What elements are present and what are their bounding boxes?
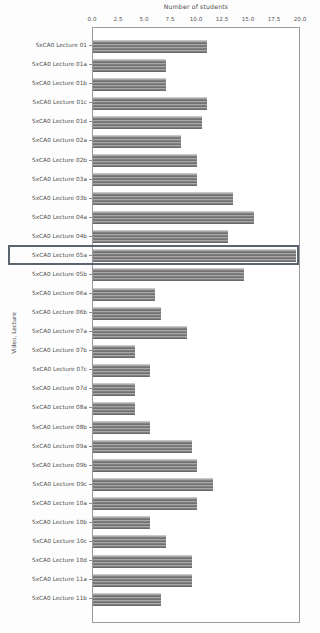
y-tick-label: SxCA0 Lecture 03b xyxy=(32,195,87,201)
bar[interactable] xyxy=(93,383,135,396)
y-tick-mark xyxy=(89,522,92,523)
y-tick-mark xyxy=(89,388,92,389)
y-tick-label: SxCA0 Lecture 05a xyxy=(32,252,87,258)
bar[interactable] xyxy=(93,192,233,205)
y-tick-label: SxCA0 Lecture 01d xyxy=(32,118,87,124)
bar[interactable] xyxy=(93,478,213,491)
bar[interactable] xyxy=(93,268,244,281)
bar[interactable] xyxy=(93,40,207,53)
y-tick-label: SxCA0 Lecture 07a xyxy=(32,328,87,334)
x-tick-label: 7.5 xyxy=(166,16,175,22)
y-tick-label: SxCA0 Lecture 09a xyxy=(32,443,87,449)
y-tick-label: SxCA0 Lecture 11b xyxy=(32,595,87,601)
y-tick-label: SxCA0 Lecture 01b xyxy=(32,80,87,86)
bar[interactable] xyxy=(93,421,150,434)
bar[interactable] xyxy=(93,593,161,606)
bar[interactable] xyxy=(93,288,155,301)
plot-area[interactable] xyxy=(92,27,300,623)
y-tick-mark xyxy=(89,198,92,199)
bar[interactable] xyxy=(93,211,254,224)
y-tick-mark xyxy=(89,465,92,466)
bar[interactable] xyxy=(93,230,228,243)
y-tick-label: SxCA0 Lecture 08a xyxy=(32,404,87,410)
y-tick-label: SxCA0 Lecture 01a xyxy=(32,61,87,67)
y-tick-mark xyxy=(89,598,92,599)
y-tick-mark xyxy=(89,83,92,84)
y-tick-label: SxCA0 Lecture 01 xyxy=(36,42,87,48)
bar[interactable] xyxy=(93,516,150,529)
x-tick-label: 15.0 xyxy=(242,16,254,22)
x-tick-label: 5.0 xyxy=(140,16,149,22)
y-tick-label: SxCA0 Lecture 10b xyxy=(32,519,87,525)
y-tick-mark xyxy=(89,407,92,408)
bar[interactable] xyxy=(93,574,192,587)
chart-title: Number of students xyxy=(92,3,300,10)
bar[interactable] xyxy=(93,326,187,339)
y-tick-mark xyxy=(89,446,92,447)
bar[interactable] xyxy=(93,154,197,167)
y-tick-mark xyxy=(89,331,92,332)
bar[interactable] xyxy=(93,459,197,472)
y-tick-mark xyxy=(89,484,92,485)
bar[interactable] xyxy=(93,307,161,320)
bar[interactable] xyxy=(93,364,150,377)
y-axis-title: Video, Lecture xyxy=(11,303,17,363)
y-tick-label: SxCA0 Lecture 04b xyxy=(32,233,87,239)
bar-chart-figure: Number of students 0.02.55.07.510.012.51… xyxy=(0,0,320,633)
y-tick-label: SxCA0 Lecture 07d xyxy=(32,385,87,391)
x-tick-label: 20.0 xyxy=(294,16,306,22)
x-tick-label: 10.0 xyxy=(190,16,202,22)
y-tick-mark xyxy=(89,579,92,580)
y-tick-mark xyxy=(89,236,92,237)
bar[interactable] xyxy=(93,97,207,110)
x-tick-label: 2.5 xyxy=(114,16,123,22)
bar[interactable] xyxy=(93,59,166,72)
bar[interactable] xyxy=(93,497,197,510)
y-tick-mark xyxy=(89,217,92,218)
bar[interactable] xyxy=(93,249,296,262)
bar[interactable] xyxy=(93,555,192,568)
x-tick-label: 17.5 xyxy=(268,16,280,22)
y-tick-mark xyxy=(89,312,92,313)
y-tick-mark xyxy=(89,427,92,428)
y-tick-mark xyxy=(89,121,92,122)
y-tick-mark xyxy=(89,350,92,351)
y-tick-mark xyxy=(89,274,92,275)
x-tick-label: 12.5 xyxy=(216,16,228,22)
bar[interactable] xyxy=(93,116,202,129)
y-tick-mark xyxy=(89,293,92,294)
y-tick-label: SxCA0 Lecture 06b xyxy=(32,309,87,315)
bar[interactable] xyxy=(93,535,166,548)
y-tick-label: SxCA0 Lecture 02b xyxy=(32,157,87,163)
y-tick-label: SxCA0 Lecture 06a xyxy=(32,290,87,296)
y-tick-label: SxCA0 Lecture 11a xyxy=(32,576,87,582)
y-tick-label: SxCA0 Lecture 10c xyxy=(32,538,87,544)
y-tick-label: SxCA0 Lecture 10a xyxy=(32,500,87,506)
y-tick-mark xyxy=(89,160,92,161)
y-tick-label: SxCA0 Lecture 10d xyxy=(32,557,87,563)
y-tick-mark xyxy=(89,503,92,504)
y-tick-label: SxCA0 Lecture 01c xyxy=(32,99,87,105)
bar[interactable] xyxy=(93,345,135,358)
y-tick-mark xyxy=(89,560,92,561)
y-tick-label: SxCA0 Lecture 09c xyxy=(32,481,87,487)
bar[interactable] xyxy=(93,135,181,148)
y-tick-label: SxCA0 Lecture 02a xyxy=(32,137,87,143)
bar[interactable] xyxy=(93,78,166,91)
y-tick-mark xyxy=(89,45,92,46)
x-tick-label: 0.0 xyxy=(88,16,97,22)
y-tick-mark xyxy=(89,140,92,141)
bar[interactable] xyxy=(93,440,192,453)
y-tick-mark xyxy=(89,179,92,180)
y-tick-mark xyxy=(89,102,92,103)
y-tick-label: SxCA0 Lecture 07b xyxy=(32,347,87,353)
bar[interactable] xyxy=(93,173,197,186)
y-tick-mark xyxy=(89,64,92,65)
y-tick-mark xyxy=(89,541,92,542)
x-axis-tick-labels: 0.02.55.07.510.012.515.017.520.0 xyxy=(92,16,300,26)
y-tick-label: SxCA0 Lecture 04a xyxy=(32,214,87,220)
y-tick-label: SxCA0 Lecture 09b xyxy=(32,462,87,468)
y-tick-label: SxCA0 Lecture 08b xyxy=(32,424,87,430)
bar[interactable] xyxy=(93,402,135,415)
y-tick-label: SxCA0 Lecture 07c xyxy=(32,366,87,372)
